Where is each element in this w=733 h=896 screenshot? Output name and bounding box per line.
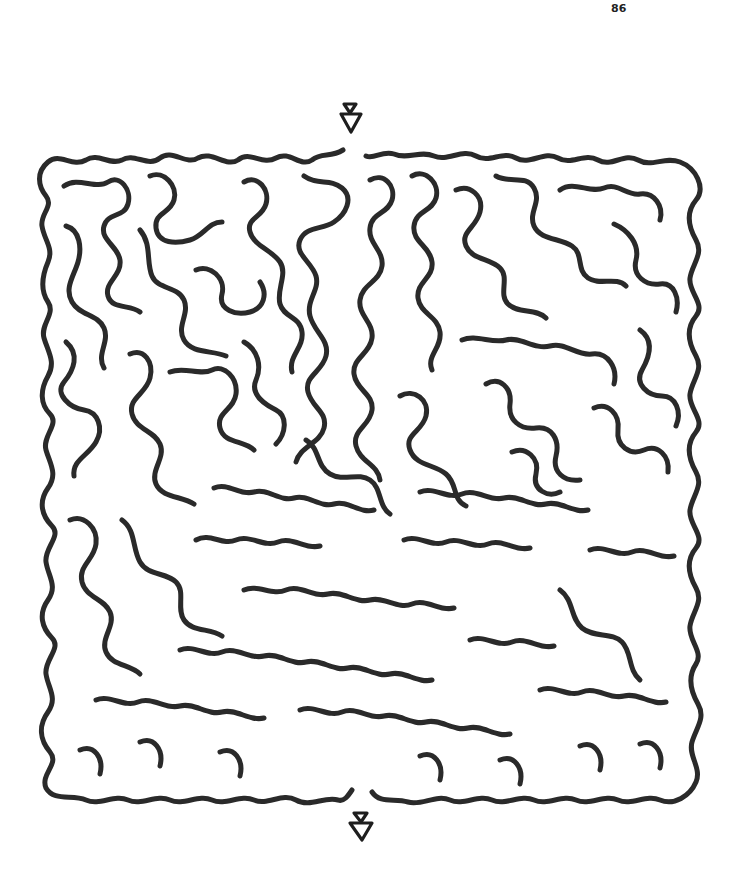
maze-inner-walls [61, 174, 678, 784]
entrance-arrow-icon [341, 104, 361, 132]
maze [0, 0, 733, 896]
exit-arrow-icon [350, 813, 372, 840]
maze-outer-wall [40, 150, 702, 803]
